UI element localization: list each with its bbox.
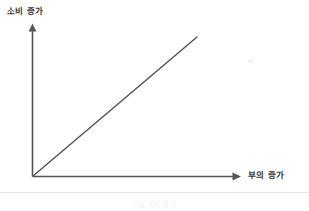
footer-caption: 그림 소비 증가 (0, 201, 309, 209)
page-root: 소비 증가 부의 증가 그림 소비 증가 (0, 0, 309, 211)
scan-artifact-speck (248, 59, 253, 63)
y-axis-label: 소비 증가 (7, 7, 43, 16)
x-axis-arrowhead (233, 172, 242, 180)
data-series-line (33, 37, 197, 176)
footer-divider (0, 192, 309, 193)
x-axis-label: 부의 증가 (248, 171, 284, 180)
chart-figure: 소비 증가 부의 증가 (0, 0, 309, 211)
y-axis-arrowhead (29, 24, 37, 32)
